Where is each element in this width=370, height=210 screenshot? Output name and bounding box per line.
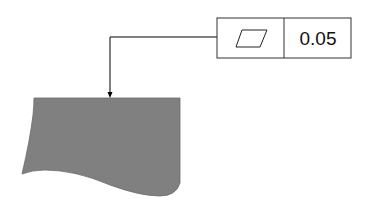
part-surface-section: [22, 98, 180, 196]
leader-arrowhead: [108, 92, 113, 98]
feature-control-frame: 0.05: [217, 18, 351, 58]
leader-line: [110, 37, 217, 93]
tolerance-value: 0.05: [300, 28, 337, 49]
gdt-diagram: 0.05: [0, 0, 370, 210]
